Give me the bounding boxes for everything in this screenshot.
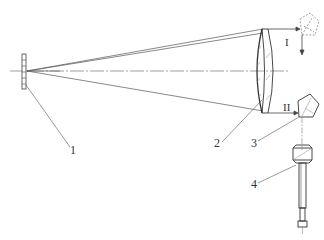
leader-4 bbox=[258, 165, 296, 183]
label-position-II: II bbox=[283, 101, 290, 113]
pentaprism-position-II bbox=[298, 94, 319, 117]
label-part-4: 4 bbox=[251, 178, 257, 190]
optical-diagram bbox=[0, 0, 324, 240]
label-part-1: 1 bbox=[70, 144, 76, 156]
label-part-2: 2 bbox=[214, 137, 220, 149]
beam-I bbox=[268, 27, 300, 31]
eyepiece bbox=[293, 145, 312, 234]
pentaprism-position-I bbox=[300, 13, 319, 35]
leader-1 bbox=[26, 85, 70, 147]
reticle-plate bbox=[22, 54, 26, 89]
leader-lines bbox=[26, 85, 299, 183]
label-part-3: 3 bbox=[251, 137, 257, 149]
light-rays bbox=[27, 29, 263, 111]
output-arrow-I bbox=[300, 35, 304, 55]
leader-3 bbox=[258, 117, 299, 141]
label-position-I: I bbox=[285, 36, 289, 48]
